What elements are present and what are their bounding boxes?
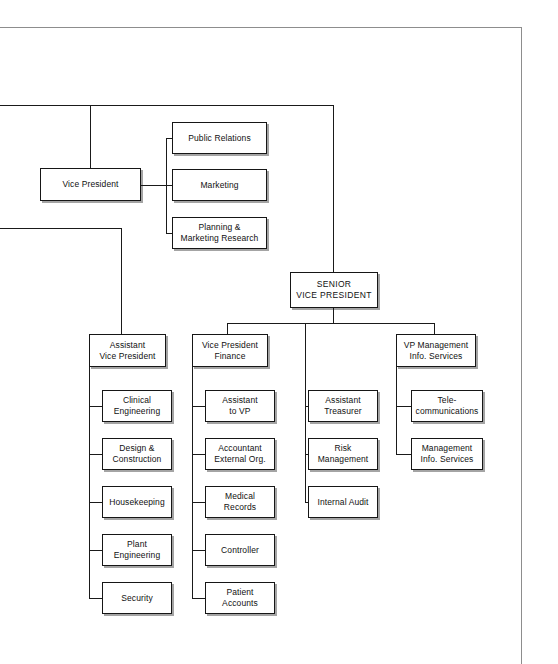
connector-controller xyxy=(192,550,206,551)
connector-svp-bus xyxy=(227,323,435,324)
node-patient-accounts-label: Patient Accounts xyxy=(208,587,272,609)
connector-treasurer-group-drop xyxy=(305,323,306,396)
page-border-right xyxy=(521,27,522,664)
node-planning-marketing-research[interactable]: Planning & Marketing Research xyxy=(172,217,267,249)
connector-patient-accounts xyxy=(192,598,206,599)
node-risk-management[interactable]: Risk Management xyxy=(308,438,378,470)
connector-avp-spine xyxy=(89,367,90,598)
node-medical-records-label: Medical Records xyxy=(208,491,272,513)
node-accountant-external-org[interactable]: Accountant External Org. xyxy=(205,438,275,470)
node-assistant-vice-president[interactable]: Assistant Vice President xyxy=(89,334,166,367)
connector-plant-engineering xyxy=(89,550,103,551)
node-telecommunications-label: Tele- communications xyxy=(416,395,479,417)
node-senior-vice-president-label: SENIOR VICE PRESIDENT xyxy=(296,279,372,301)
connector-vp-finance-drop xyxy=(227,323,228,334)
node-management-info-services[interactable]: Management Info. Services xyxy=(411,438,483,470)
node-public-relations[interactable]: Public Relations xyxy=(172,122,267,154)
connector-vp-drop xyxy=(90,105,91,168)
node-internal-audit-label: Internal Audit xyxy=(317,497,368,508)
node-plant-engineering[interactable]: Plant Engineering xyxy=(102,534,172,566)
node-security-label: Security xyxy=(121,593,153,604)
connector-left-bus-lower xyxy=(0,228,122,229)
connector-vp-child-spine xyxy=(166,138,167,234)
node-security[interactable]: Security xyxy=(102,582,172,614)
node-vice-president[interactable]: Vice President xyxy=(40,168,141,201)
connector-medical-records xyxy=(192,502,206,503)
node-vice-president-label: Vice President xyxy=(62,179,118,190)
org-chart-canvas: Vice President Public Relations Marketin… xyxy=(0,0,558,664)
connector-vpf-spine xyxy=(192,367,193,598)
connector-assistant-vp-drop xyxy=(121,228,122,334)
page-border-top xyxy=(0,27,522,28)
node-housekeeping[interactable]: Housekeeping xyxy=(102,486,172,518)
connector-security xyxy=(89,598,103,599)
connector-management-info-services xyxy=(396,454,412,455)
connector-telecommunications xyxy=(396,406,412,407)
node-marketing[interactable]: Marketing xyxy=(172,169,267,201)
connector-design-construction xyxy=(89,454,103,455)
node-vice-president-finance[interactable]: Vice President Finance xyxy=(192,334,268,367)
node-controller[interactable]: Controller xyxy=(205,534,275,566)
node-assistant-to-vp[interactable]: Assistant to VP xyxy=(205,390,275,422)
connector-vp-mis-drop xyxy=(434,323,435,334)
node-clinical-engineering-label: Clinical Engineering xyxy=(114,395,160,417)
connector-vp-to-spine xyxy=(141,185,167,186)
node-assistant-vice-president-label: Assistant Vice President xyxy=(99,340,155,362)
node-assistant-treasurer[interactable]: Assistant Treasurer xyxy=(308,390,378,422)
node-telecommunications[interactable]: Tele- communications xyxy=(411,390,483,422)
node-planning-marketing-research-label: Planning & Marketing Research xyxy=(181,222,259,244)
connector-treasurer-spine xyxy=(305,396,306,502)
node-vp-management-info-services-label: VP Management Info. Services xyxy=(404,340,468,362)
node-patient-accounts[interactable]: Patient Accounts xyxy=(205,582,275,614)
connector-vpmis-spine xyxy=(396,367,397,454)
node-vp-management-info-services[interactable]: VP Management Info. Services xyxy=(396,334,476,367)
connector-accountant-external-org xyxy=(192,454,206,455)
node-plant-engineering-label: Plant Engineering xyxy=(105,539,169,561)
node-housekeeping-label: Housekeeping xyxy=(109,497,165,508)
connector-assistant-to-vp xyxy=(192,406,206,407)
node-vice-president-finance-label: Vice President Finance xyxy=(202,340,258,362)
node-assistant-treasurer-label: Assistant Treasurer xyxy=(324,395,361,417)
connector-top-bus xyxy=(0,105,333,106)
node-controller-label: Controller xyxy=(221,545,259,556)
connector-svp-drop xyxy=(333,105,334,273)
node-design-construction-label: Design & Construction xyxy=(113,443,162,465)
node-internal-audit[interactable]: Internal Audit xyxy=(308,486,378,518)
node-design-construction[interactable]: Design & Construction xyxy=(102,438,172,470)
connector-clinical-engineering xyxy=(89,406,103,407)
node-public-relations-label: Public Relations xyxy=(188,133,251,144)
connector-svp-down xyxy=(333,308,334,323)
node-risk-management-label: Risk Management xyxy=(311,443,375,465)
node-clinical-engineering[interactable]: Clinical Engineering xyxy=(102,390,172,422)
connector-housekeeping xyxy=(89,502,103,503)
node-accountant-external-org-label: Accountant External Org. xyxy=(214,443,265,465)
node-medical-records[interactable]: Medical Records xyxy=(205,486,275,518)
node-management-info-services-label: Management Info. Services xyxy=(421,443,474,465)
node-marketing-label: Marketing xyxy=(200,180,238,191)
node-senior-vice-president[interactable]: SENIOR VICE PRESIDENT xyxy=(290,272,378,308)
node-assistant-to-vp-label: Assistant to VP xyxy=(222,395,257,417)
